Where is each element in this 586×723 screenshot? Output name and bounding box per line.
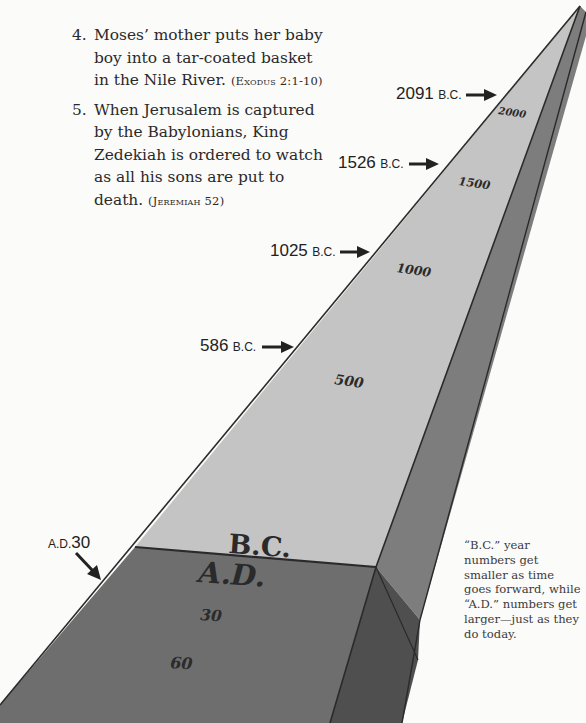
tick-30: 30 [200,605,223,625]
event-list: 4. Moses’ mother puts her baby boy into … [72,24,332,218]
event-text: When Jerusalem is captured by the Babylo… [94,101,323,209]
callout-era: A.D. [48,537,71,551]
callout-era: B.C. [380,157,403,171]
event-reference: (Jeremiah 52) [148,194,224,208]
event-number: 5. [72,99,87,122]
callout-1526-bc: 1526 B.C. [338,153,404,173]
explanatory-note: “B.C.” year numbers get smaller as time … [464,538,582,642]
tick-60: 60 [170,653,194,674]
callout-1025-bc: 1025 B.C. [270,241,336,261]
ad-top-face [0,547,376,723]
callout-586-bc: 586 B.C. [200,336,256,356]
arrow-586-bc [262,341,294,353]
event-item: 5. When Jerusalem is captured by the Bab… [72,99,332,213]
callout-era: B.C. [438,88,461,102]
callout-year: 1025 [270,241,308,260]
callout-year: 1526 [338,153,376,172]
event-item: 4. Moses’ mother puts her baby boy into … [72,24,332,93]
callout-era: B.C. [233,340,256,354]
callout-year: 2091 [396,84,434,103]
era-label-ad: A.D. [195,555,267,594]
arrow-1025-bc [340,246,370,258]
event-number: 4. [72,24,87,47]
arrow-1526-bc [409,158,439,170]
callout-era: B.C. [312,245,335,259]
event-reference: (Exodus 2:1-10) [231,74,323,88]
arrow-30-ad [76,553,101,580]
callout-year: 586 [200,336,228,355]
callout-30-ad: A.D.30 [48,533,90,553]
callout-year: 30 [71,533,90,552]
callout-2091-bc: 2091 B.C. [396,84,462,104]
arrow-2091-bc [466,89,497,101]
